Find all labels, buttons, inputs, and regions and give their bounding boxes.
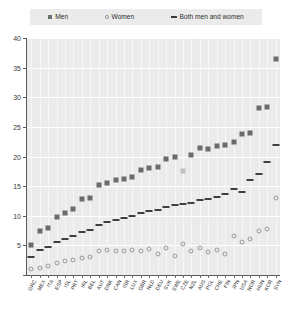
gridline-vertical (73, 38, 74, 275)
data-point-men (138, 167, 143, 172)
legend-item-both: Both men and women (171, 14, 244, 21)
x-axis-tick (166, 275, 167, 278)
x-axis-tick (48, 275, 49, 278)
gridline-vertical (31, 38, 32, 275)
data-point-men (206, 146, 211, 151)
gridline-vertical (208, 38, 209, 275)
data-point-women (62, 259, 67, 264)
data-point-women (71, 257, 76, 262)
data-point-women (113, 248, 118, 253)
x-axis-tick (141, 275, 142, 278)
x-axis-tick (200, 275, 201, 278)
data-point-both (87, 229, 94, 231)
data-point-women (121, 249, 126, 254)
data-point-women (256, 228, 261, 233)
data-point-women (54, 261, 59, 266)
data-point-men (256, 105, 261, 110)
data-point-men (29, 243, 34, 248)
data-point-women (189, 249, 194, 254)
data-point-both (230, 188, 237, 190)
y-axis-labels: 510152025303540 (0, 0, 21, 321)
gridline-vertical (141, 38, 142, 275)
x-axis-tick (267, 275, 268, 278)
data-point-women (214, 248, 219, 253)
x-axis-tick (65, 275, 66, 278)
gridline-vertical (124, 38, 125, 275)
data-point-both (146, 210, 153, 212)
data-point-women (79, 256, 84, 261)
x-axis-tick (175, 275, 176, 278)
data-point-men (223, 142, 228, 147)
x-axis-tick-label: SVN (273, 279, 283, 291)
data-point-both (45, 246, 52, 248)
y-axis-tick-label: 20 (13, 153, 21, 160)
gridline-vertical (132, 38, 133, 275)
data-point-both (239, 191, 246, 193)
data-point-men (240, 131, 245, 136)
y-axis-tick (23, 68, 27, 69)
x-axis-tick (40, 275, 41, 278)
y-axis-tick (23, 38, 27, 39)
data-point-men (79, 197, 84, 202)
data-point-both (137, 212, 144, 214)
gridline-vertical (158, 38, 159, 275)
x-axis-tick (116, 275, 117, 278)
data-point-women (88, 255, 93, 260)
gridline-vertical (107, 38, 108, 275)
x-axis-tick (234, 275, 235, 278)
data-point-men (37, 228, 42, 233)
x-axis-tick (250, 275, 251, 278)
y-axis-tick (23, 245, 27, 246)
data-point-both (36, 249, 43, 251)
gridline-vertical (267, 38, 268, 275)
data-point-both (78, 231, 85, 233)
y-axis-tick (23, 186, 27, 187)
x-axis-tick (57, 275, 58, 278)
data-point-men (248, 130, 253, 135)
data-point-both (222, 193, 229, 195)
data-point-men (54, 214, 59, 219)
data-point-women (223, 252, 228, 257)
data-point-both (120, 217, 127, 219)
gridline-vertical (149, 38, 150, 275)
gridline-vertical (40, 38, 41, 275)
gridline-vertical (259, 38, 260, 275)
data-point-both (205, 198, 212, 200)
data-point-women (155, 252, 160, 257)
x-axis-tick (82, 275, 83, 278)
x-axis-tick (158, 275, 159, 278)
gridline-vertical (82, 38, 83, 275)
x-axis-tick (242, 275, 243, 278)
data-point-both (188, 202, 195, 204)
filled-square-marker-icon (48, 15, 52, 19)
y-axis-tick-label: 15 (13, 183, 21, 190)
y-axis-tick-label: 5 (17, 242, 21, 249)
x-axis-tick-label: BEL (88, 279, 97, 290)
data-point-both (28, 256, 35, 258)
x-axis-tick (31, 275, 32, 278)
data-point-women (197, 246, 202, 251)
y-axis-tick (23, 157, 27, 158)
y-axis-tick-label: 40 (13, 35, 21, 42)
data-point-men (121, 177, 126, 182)
gridline-vertical (90, 38, 91, 275)
data-point-both (70, 235, 77, 237)
y-axis-tick (23, 97, 27, 98)
data-point-men (189, 153, 194, 158)
chart-container: Men Women Both men and women 51015202530… (0, 0, 286, 321)
x-axis-tick (149, 275, 150, 278)
x-axis-tick (225, 275, 226, 278)
y-axis-tick-label: 10 (13, 212, 21, 219)
x-axis-tick (124, 275, 125, 278)
data-point-men (214, 144, 219, 149)
data-point-men (71, 206, 76, 211)
dash-line-marker-icon (171, 16, 177, 18)
y-axis-tick-label: 35 (13, 64, 21, 71)
open-circle-marker-icon (105, 15, 109, 19)
data-point-men (273, 56, 278, 61)
gridline-vertical (57, 38, 58, 275)
data-point-men (46, 225, 51, 230)
data-point-women (46, 264, 51, 269)
data-point-men (105, 181, 110, 186)
data-point-men (130, 175, 135, 180)
